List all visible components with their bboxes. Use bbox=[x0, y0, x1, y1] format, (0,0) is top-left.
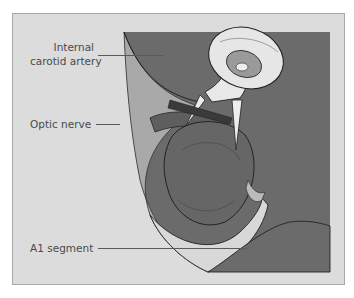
label-optic-nerve: Optic nerve bbox=[30, 117, 88, 131]
label-ica-line1: Internal bbox=[30, 40, 94, 54]
leader-a1-segment bbox=[98, 248, 246, 249]
leader-ica bbox=[98, 55, 164, 56]
label-internal-carotid-artery: Internal carotid artery bbox=[30, 40, 94, 68]
label-a1-segment: A1 segment bbox=[30, 241, 93, 255]
leader-optic-nerve bbox=[96, 124, 120, 125]
label-ica-line2: carotid artery bbox=[30, 54, 94, 68]
